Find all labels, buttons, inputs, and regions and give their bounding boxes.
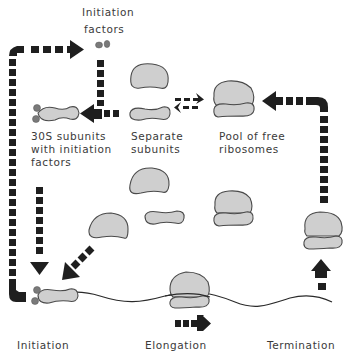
label-separate-line1: Separate bbox=[131, 130, 183, 142]
label-30s-line3: factors bbox=[31, 156, 71, 168]
label-pool-line2: ribosomes bbox=[219, 143, 279, 155]
termination-up-arrow bbox=[311, 259, 331, 290]
arrow-to-30s-complex bbox=[80, 104, 102, 123]
elongation-arrow bbox=[175, 315, 211, 331]
label-pool-line1: Pool of free bbox=[219, 130, 285, 142]
label-initiation-factors-line1: Initiation bbox=[82, 6, 134, 18]
elongating-ribosome bbox=[165, 272, 210, 308]
initiation-factors-icon bbox=[96, 40, 110, 48]
small-subunit-middle bbox=[145, 211, 184, 224]
large-subunit-separate bbox=[131, 64, 169, 89]
label-30s-line2: with initiation bbox=[31, 143, 112, 155]
factors-to-30s-dashed-line bbox=[97, 60, 119, 117]
left-return-dashed-line bbox=[9, 59, 26, 302]
label-termination: Termination bbox=[266, 339, 335, 351]
arrow-large-subunit-to-initiation bbox=[62, 246, 94, 280]
arrow-to-initiation-factors bbox=[9, 40, 84, 59]
released-ribosome bbox=[304, 212, 342, 249]
small-subunit-separate bbox=[130, 107, 170, 120]
label-initiation: Initiation bbox=[17, 339, 69, 351]
label-separate-line2: subunits bbox=[131, 143, 180, 155]
large-subunit-lower-left bbox=[89, 213, 128, 238]
label-initiation-factors-line2: factors bbox=[84, 23, 124, 35]
free-ribosome-pool bbox=[214, 81, 254, 117]
ribosome-middle-right bbox=[214, 191, 253, 226]
30s-subunit-with-factors bbox=[33, 105, 80, 123]
label-30s-line1: 30S subunits bbox=[31, 130, 106, 142]
large-subunit-middle bbox=[130, 168, 169, 194]
ribosome-cycle-diagram: Initiation factors 30S subunits with ini… bbox=[0, 0, 351, 362]
label-elongation: Elongation bbox=[145, 339, 207, 351]
initiation-complex bbox=[32, 287, 79, 305]
equilibrium-arrows bbox=[174, 93, 204, 113]
arrow-30s-to-initiation bbox=[30, 187, 49, 275]
